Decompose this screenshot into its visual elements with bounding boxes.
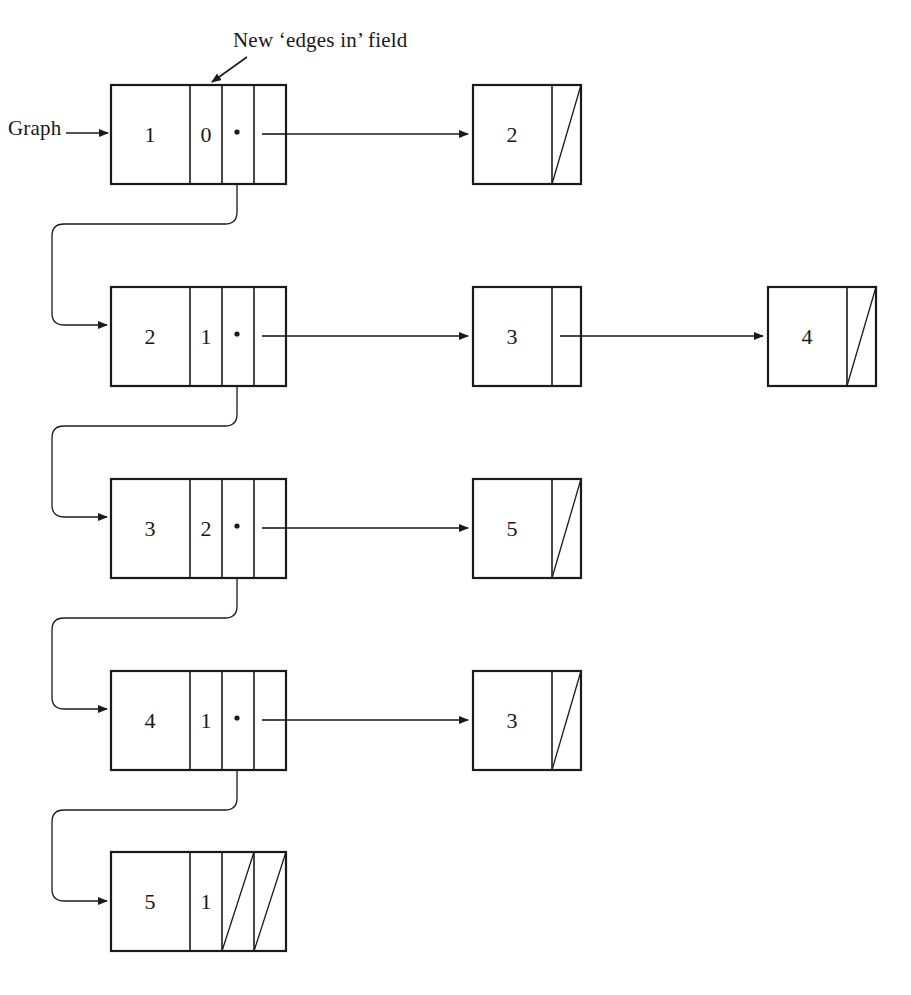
edge-node-r4-3	[473, 671, 581, 770]
diagram-canvas: 1 0 2 1 3 2 4 1 5 1 2 3 4 5 3 Graph New …	[0, 0, 911, 995]
cell-edges-in-4: 1	[201, 708, 212, 733]
edges-in-leader-arrow	[212, 57, 247, 82]
down-pointer-dot-2	[234, 331, 239, 336]
edge-node-r2-3	[473, 287, 581, 386]
header-node-4	[111, 671, 286, 770]
cell-edges-in-2: 1	[201, 324, 212, 349]
cell-edges-in-5: 1	[201, 889, 212, 914]
edges-in-annotation-label: New ‘edges in’ field	[233, 28, 407, 53]
edge-value-r1-e1: 2	[507, 122, 518, 147]
edge-node-r2-4	[768, 287, 876, 386]
cell-vertex-5: 5	[145, 889, 156, 914]
cell-edges-in-3: 2	[201, 516, 212, 541]
edge-node-r3-5	[473, 479, 581, 578]
edge-node-r1-2	[473, 85, 581, 184]
down-pointer-dot-1	[234, 129, 239, 134]
down-pointer-dot-4	[234, 715, 239, 720]
cell-vertex-4: 4	[145, 708, 156, 733]
header-node-2	[111, 287, 286, 386]
cell-edges-in-1: 0	[201, 122, 212, 147]
cell-vertex-1: 1	[145, 122, 156, 147]
graph-adjacency-list-diagram: 1 0 2 1 3 2 4 1 5 1 2 3 4 5 3	[0, 0, 911, 995]
header-node-3	[111, 479, 286, 578]
edge-value-r4-e5: 3	[507, 708, 518, 733]
cell-vertex-2: 2	[145, 324, 156, 349]
edge-value-r2-e2: 3	[507, 324, 518, 349]
graph-pointer-label: Graph	[8, 116, 61, 141]
header-node-5	[111, 852, 286, 951]
edge-value-r2-e3: 4	[802, 324, 813, 349]
edge-value-r3-e4: 5	[507, 516, 518, 541]
cell-vertex-3: 3	[145, 516, 156, 541]
header-node-1	[111, 85, 286, 184]
down-pointer-dot-3	[234, 523, 239, 528]
